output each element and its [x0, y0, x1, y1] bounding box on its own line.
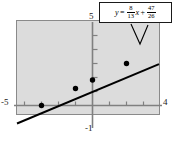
callout-leader-line [131, 24, 148, 44]
data-points [39, 61, 129, 108]
slope-denominator: 13 [127, 12, 136, 20]
x-axis-right-label: 4 [163, 98, 168, 107]
intercept-fraction: 47 26 [147, 5, 156, 19]
data-point [39, 103, 44, 108]
data-point [124, 61, 129, 66]
regression-line [17, 64, 159, 123]
y-axis-top-label: 5 [89, 12, 94, 21]
graph-figure: 5 -5 4 -1 y = 8 13 x + 47 26 [0, 0, 175, 145]
data-point [73, 86, 78, 91]
equation-text: y = 8 13 x + 47 26 [115, 6, 156, 20]
equation-lead-variable: y [115, 9, 119, 17]
slope-fraction: 8 13 [127, 5, 136, 19]
equation-variable-x: x [136, 9, 140, 17]
y-axis-bottom-label: -1 [85, 124, 93, 133]
equation-callout-box: y = 8 13 x + 47 26 [99, 2, 172, 23]
equation-plus-sign: + [141, 9, 146, 17]
x-axis-left-label: -5 [1, 98, 9, 107]
intercept-denominator: 26 [147, 12, 156, 20]
data-point [90, 77, 95, 82]
equation-equals-sign: = [120, 9, 125, 17]
